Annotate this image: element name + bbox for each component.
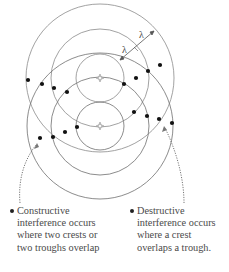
constructive-caption-line: where two crests or: [17, 229, 99, 241]
source-b-star-icon: [96, 122, 104, 130]
constructive-caption: Constructive interference occurs where t…: [17, 205, 99, 254]
source-a-star-icon: [96, 74, 104, 82]
interference-point: [63, 130, 67, 134]
interference-point: [158, 63, 162, 67]
constructive-pointer: [20, 145, 36, 203]
interference-point: [146, 69, 150, 73]
wavelength-label-inner: λ: [122, 44, 127, 55]
interference-point: [157, 117, 161, 121]
interference-point: [65, 90, 69, 94]
constructive-caption-line: interference occurs: [17, 217, 99, 229]
pointer-arrows: [20, 128, 184, 203]
destructive-caption-line: Destructive: [137, 205, 216, 217]
destructive-caption-line: interference occurs: [137, 217, 216, 229]
interference-point: [170, 121, 174, 125]
destructive-pointer: [165, 128, 184, 203]
interference-point: [38, 136, 42, 140]
destructive-caption: Destructive interference occurs where a …: [137, 205, 216, 254]
interference-point: [75, 125, 79, 129]
interference-point: [122, 82, 126, 86]
constructive-caption-line: two troughs overlap: [17, 242, 99, 254]
constructive-caption-line: Constructive: [17, 205, 99, 217]
interference-point: [145, 114, 149, 118]
bullet-dot-icon: [10, 209, 14, 213]
bullet-dot-icon: [130, 209, 134, 213]
interference-point: [134, 76, 138, 80]
destructive-arrowhead-icon: [162, 126, 167, 132]
interference-point: [132, 110, 136, 114]
destructive-caption-line: overlaps a trough.: [137, 242, 216, 254]
interference-point: [26, 78, 30, 82]
interference-point: [52, 86, 56, 90]
destructive-caption-line: where a crest: [137, 229, 216, 241]
interference-point: [51, 135, 55, 139]
wavelength-label-outer: λ: [139, 29, 144, 40]
interference-point: [40, 82, 44, 86]
